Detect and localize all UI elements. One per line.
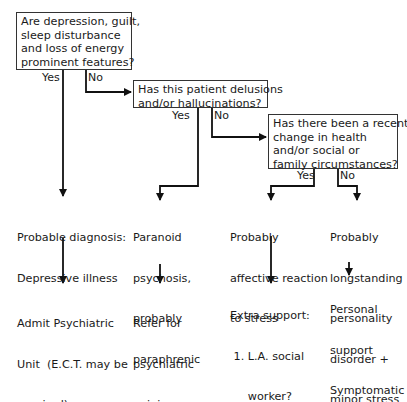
text-line: Admit Psychiatric [17,317,128,331]
text-line: opinion [133,398,194,402]
text-line: Probably [330,231,403,245]
text-line: Paranoid [133,231,200,245]
q3-line: Has there been a recent [273,117,393,131]
q1-line: Are depression, guilt, [21,15,127,29]
q1-line: prominent features? [21,56,127,70]
text-line: Refer for [133,317,194,331]
paranoid-action: Refer for psychiatric opinion [133,290,194,402]
personality-action: Personal support Symptomatic treatment [330,276,404,402]
q3-yes-label: Yes [297,170,315,182]
q3-line: and/or social or [273,144,393,158]
text-line: Depressive illness [17,272,126,286]
text-line: psychiatric [133,358,194,372]
question-box-depression: Are depression, guilt, sleep disturbance… [16,12,132,70]
text-line: psychosis, [133,272,200,286]
q2-line: Has this patient delusions [138,83,263,97]
text-line: Symptomatic [330,384,404,398]
q3-line: change in health [273,131,393,145]
text-line: required) [17,398,128,402]
q1-line: and loss of energy [21,42,127,56]
text-line: Probable diagnosis: [17,231,126,245]
depressive-diagnosis: Probable diagnosis: Depressive illness [17,204,126,299]
q2-no-label: No [214,110,229,122]
q1-no-label: No [88,72,103,84]
q2-yes-label: Yes [172,110,190,122]
q3-no-label: No [340,170,355,182]
q2-line: and/or hallucinations? [138,97,263,111]
text-line: support [330,344,404,358]
depressive-action: Admit Psychiatric Unit (E.C.T. may be re… [17,290,128,402]
question-box-delusions: Has this patient delusions and/or halluc… [133,80,268,108]
text-line: Personal [330,303,404,317]
q1-yes-label: Yes [42,72,60,84]
text-line: Unit (E.C.T. may be [17,358,128,372]
text-line: Probably [230,231,328,245]
q1-line: sleep disturbance [21,29,127,43]
q3-line: family circumstances? [273,158,393,172]
question-box-recent-change: Has there been a recent change in health… [268,114,398,169]
